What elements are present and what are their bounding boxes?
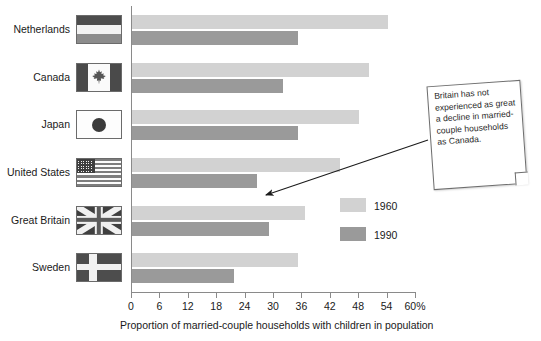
x-tick-label: 36 <box>296 300 308 312</box>
x-tick-label: 12 <box>182 300 194 312</box>
x-tick-label: 18 <box>210 300 222 312</box>
maple-leaf-icon <box>92 69 107 85</box>
category-label: United States <box>0 167 70 178</box>
x-tick-label: 54 <box>381 300 393 312</box>
category-label: Sweden <box>0 262 70 273</box>
category-label: Netherlands <box>0 24 70 35</box>
bar-1990-canada <box>132 79 283 93</box>
x-tick-label: 42 <box>324 300 336 312</box>
x-tick-label: 60% <box>404 300 425 312</box>
x-tick <box>387 293 388 298</box>
bar-1990-japan <box>132 126 298 140</box>
flag-sweden-icon <box>76 253 122 282</box>
bar-1960-united-states <box>132 158 340 172</box>
flag-canada-icon <box>76 63 122 92</box>
x-tick <box>358 293 359 298</box>
legend-label-1990: 1990 <box>374 229 397 241</box>
annotation-text: Britain has not experienced as great a d… <box>434 85 519 148</box>
flag-great-britain-icon <box>76 206 122 235</box>
category-label: Japan <box>0 119 70 130</box>
bar-1990-united-states <box>132 174 257 188</box>
bar-1960-netherlands <box>132 15 388 29</box>
x-tick <box>159 293 160 298</box>
x-tick <box>131 293 132 298</box>
bar-1990-netherlands <box>132 31 298 45</box>
x-tick <box>415 293 416 298</box>
legend-swatch-1990 <box>340 227 366 241</box>
category-label: Great Britain <box>0 215 70 226</box>
x-tick-label: 30 <box>267 300 279 312</box>
bar-1960-sweden <box>132 253 298 267</box>
x-tick <box>301 293 302 298</box>
x-tick-label: 6 <box>156 300 162 312</box>
note-fold-corner <box>515 172 529 186</box>
bar-1990-sweden <box>132 269 234 283</box>
legend-label-1960: 1960 <box>374 200 397 212</box>
annotation-note: Britain has not experienced as great a d… <box>426 80 527 190</box>
x-axis-title: Proportion of married-couple households … <box>120 319 433 331</box>
flag-japan-icon <box>76 110 122 139</box>
x-tick <box>273 293 274 298</box>
x-tick <box>216 293 217 298</box>
legend-swatch-1960 <box>340 198 366 212</box>
bar-chart-figure: NetherlandsCanadaJapanUnited StatesGreat… <box>0 0 541 341</box>
x-tick <box>245 293 246 298</box>
x-tick <box>188 293 189 298</box>
category-label: Canada <box>0 72 70 83</box>
x-tick-label: 24 <box>239 300 251 312</box>
bar-1960-great-britain <box>132 206 305 220</box>
flag-united-states-icon <box>76 158 122 187</box>
x-tick-label: 48 <box>352 300 364 312</box>
x-tick-label: 0 <box>128 300 134 312</box>
bar-1960-canada <box>132 63 369 77</box>
flag-netherlands-icon <box>76 15 122 44</box>
value-axis-baseline <box>131 6 132 298</box>
bar-1960-japan <box>132 110 359 124</box>
bar-1990-great-britain <box>132 222 269 236</box>
x-tick <box>330 293 331 298</box>
